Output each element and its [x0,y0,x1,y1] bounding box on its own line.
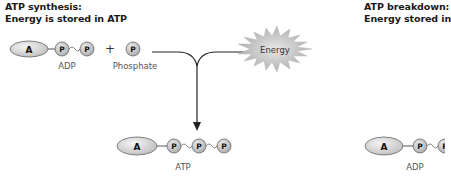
atp-caption: ATP [175,162,190,172]
adp-molecule: A P P [10,41,94,57]
phosphate-bond [69,47,80,51]
svg-text:P: P [84,45,90,54]
energy-starburst: Energy [238,26,312,72]
svg-text:P: P [130,45,136,54]
phosphate-bond [206,144,217,148]
breakdown-adp-caption: ADP [406,162,424,172]
svg-text:P: P [59,45,65,54]
svg-text:P: P [417,142,423,151]
energy-label: Energy [260,45,290,55]
arrow-head-icon [193,122,201,131]
svg-text:P: P [442,142,445,151]
phosphate-bond [427,144,438,148]
adenosine-label: A [26,45,33,55]
phosphate-caption: Phosphate [113,61,158,71]
svg-text:P: P [221,142,227,151]
svg-text:A: A [134,142,141,152]
atp-molecule: A P P P [117,137,231,155]
svg-text:P: P [171,142,177,151]
free-phosphate: P [126,42,140,56]
svg-text:P: P [196,142,202,151]
svg-text:A: A [381,142,388,152]
adp-caption: ADP [58,61,76,71]
breakdown-adp-molecule: A P P [365,137,445,155]
reaction-arrow [152,52,245,124]
phosphate-bond [181,144,192,148]
plus-sign: + [105,42,115,56]
